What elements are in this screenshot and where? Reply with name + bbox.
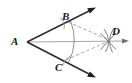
bisector-line [27,41,126,42]
bisector-arrowhead-icon [122,38,129,43]
ray-AD-bisector [27,38,129,43]
label-point-C: C [55,62,62,73]
label-point-D: D [112,26,120,37]
label-point-A: A [11,36,18,47]
ray-AC-arrowhead-icon [87,71,96,77]
label-point-B: B [62,11,69,22]
dashed-CD [66,42,108,61]
ray-AB-line [27,11,90,43]
geometry-figure: A B C D [0,0,132,83]
ray-AB-arrowhead-icon [87,8,96,14]
